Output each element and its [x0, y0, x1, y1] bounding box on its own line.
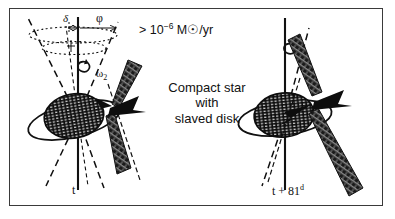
axis-ticks-left: [67, 40, 75, 52]
angular-velocity-label: ω2: [96, 68, 107, 82]
angle-delta-label: δ: [63, 13, 68, 24]
mass-loss-rate-label: > 10−6 M☉/yr: [139, 22, 213, 37]
time-label-left: t: [72, 184, 75, 196]
caption-line-2: with: [152, 95, 262, 110]
left-panel-graphics: [24, 17, 146, 190]
compact-star-left: [41, 89, 108, 143]
jet-lower-right: [309, 108, 363, 196]
jet-upper-left: [112, 60, 142, 108]
jet-upper-right: [288, 34, 322, 96]
figure-root: > 10−6 M☉/yr δ φ ω2 Compact star with sl…: [0, 0, 395, 219]
compact-star-caption: Compact star with slaved disk: [152, 80, 262, 126]
time-label-right: t + 81d: [272, 184, 304, 197]
rotation-arrow-left: [78, 59, 90, 72]
precession-ellipses-left: [29, 27, 117, 55]
angle-phi-label: φ: [96, 12, 103, 24]
caption-line-3: slaved disk: [152, 111, 262, 126]
jet-lower-left: [106, 112, 131, 174]
caption-line-1: Compact star: [152, 80, 262, 95]
